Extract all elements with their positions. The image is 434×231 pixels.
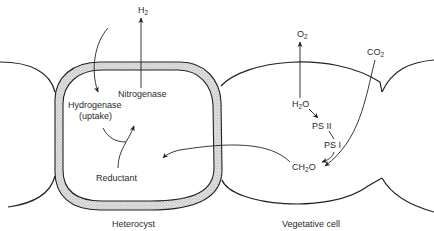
label-heterocyst: Heterocyst [112, 219, 156, 229]
label-co2: CO2 [367, 47, 385, 58]
label-ps1: PS I [324, 140, 341, 150]
label-h2: H2 [138, 5, 149, 16]
diagram-canvas: H2 O2 CO2 Nitrogenase Hydrogenase (uptak… [0, 0, 434, 231]
arrow-co2-to-ch2o [325, 60, 375, 166]
heterocyst-wall [55, 62, 222, 210]
arrow-into-heterocyst [94, 28, 108, 92]
arrow-ch2o-to-heterocyst [163, 145, 290, 162]
label-h2o: H2O [292, 99, 309, 110]
label-ch2o: CH2O [292, 162, 316, 173]
label-nitrogenase: Nitrogenase [118, 89, 167, 99]
label-hydrogenase: Hydrogenase [68, 100, 122, 110]
link-ps2-to-ps1 [329, 131, 334, 139]
label-uptake: (uptake) [79, 111, 112, 121]
label-ps2: PS II [312, 121, 332, 131]
left-cell-outline [0, 62, 55, 207]
arrow-hydrogenase-to-reductant [103, 128, 126, 142]
label-reductant: Reductant [96, 173, 138, 183]
label-o2: O2 [297, 29, 308, 40]
label-vegetative-cell: Vegetative cell [282, 219, 340, 229]
vegetative-cell-outline [221, 60, 434, 212]
arrow-h2o-to-ps2 [309, 109, 318, 118]
arrow-reductant-to-nitrogenase [118, 126, 134, 168]
